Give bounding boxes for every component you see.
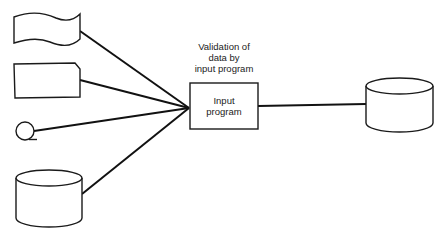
edge-paper-tape-to-input-program <box>80 31 189 108</box>
magnetic-tape-icon <box>16 122 37 140</box>
process-label-line-1: Input <box>190 95 258 106</box>
annotation-line-2: data by <box>176 52 272 63</box>
system-flowchart <box>0 0 445 235</box>
annotation-line-1: Validation of <box>176 41 272 52</box>
magnetic-disk-output-icon <box>366 78 433 132</box>
validation-annotation: Validation of data by input program <box>176 41 272 74</box>
magnetic-disk-input-icon <box>16 170 82 227</box>
punched-card-icon <box>14 63 80 98</box>
input-program-label: Input program <box>190 95 258 117</box>
edge-punched-card-to-input-program <box>80 80 189 108</box>
edge-input-program-to-output-disk <box>258 104 366 106</box>
annotation-line-3: input program <box>176 63 272 74</box>
process-label-line-2: program <box>190 106 258 117</box>
paper-tape-icon <box>14 13 80 45</box>
